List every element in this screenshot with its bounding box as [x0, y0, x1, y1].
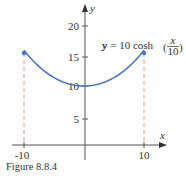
- y-tick-label-15: 15: [68, 51, 80, 63]
- x-axis-arrow-icon: [159, 142, 167, 148]
- x-tick-label-10: 10: [139, 149, 151, 161]
- cosh-curve: [24, 50, 144, 86]
- figure-caption: Figure 8.8.4: [6, 161, 57, 172]
- svg-text:): ): [179, 41, 183, 54]
- svg-text:(: (: [163, 41, 167, 54]
- x-axis-label: x: [159, 129, 165, 141]
- chart-canvas: 5 10 15 20 -10 10 x y y y = 10 cosh ( x …: [0, 0, 186, 179]
- endpoint-left: [22, 51, 26, 55]
- y-axis-arrow-icon: [82, 4, 88, 12]
- endpoint-right: [142, 51, 146, 55]
- x-tick-label-neg10: -10: [15, 149, 30, 161]
- y-tick-label-20: 20: [68, 20, 80, 32]
- equation-denominator: 10: [168, 45, 180, 57]
- y-axis-label: y: [89, 2, 95, 14]
- y-tick-label-5: 5: [74, 113, 80, 125]
- equation-lhs: y = 10 cosh: [102, 39, 154, 51]
